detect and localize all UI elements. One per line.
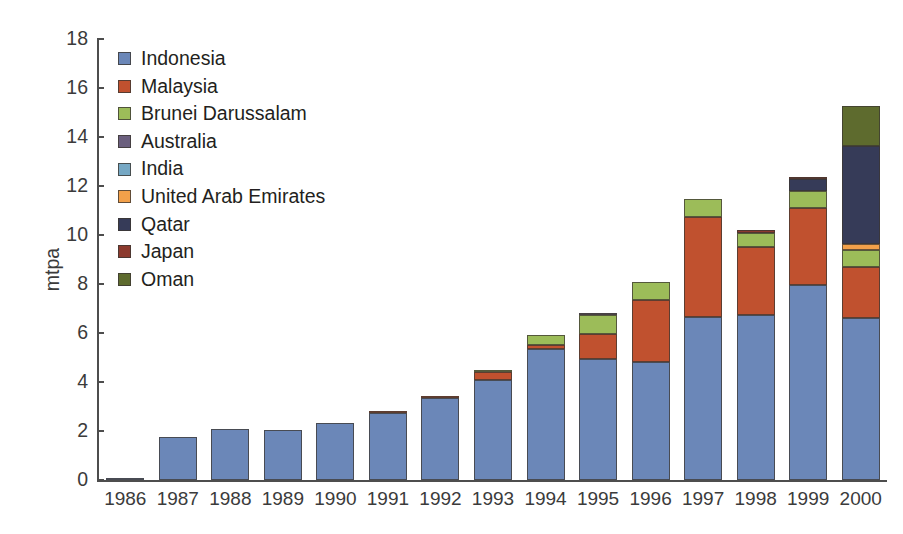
legend-item-label: Indonesia (141, 49, 226, 69)
bar-segment[interactable] (474, 372, 512, 379)
y-axis-tick-label: 2 (40, 421, 88, 441)
bar-segment[interactable] (369, 411, 407, 413)
bar-segment[interactable] (421, 396, 459, 398)
legend-item[interactable]: Malaysia (118, 73, 325, 101)
legend-item-label: Malaysia (141, 77, 218, 97)
bar-segment[interactable] (842, 106, 880, 145)
bar-group[interactable] (527, 39, 565, 480)
legend-swatch-icon (118, 163, 131, 176)
x-axis-line (97, 480, 887, 482)
y-axis-tick-label: 4 (40, 372, 88, 392)
legend-swatch-icon (118, 190, 131, 203)
legend-item-label: Qatar (141, 215, 190, 235)
bar-segment[interactable] (264, 430, 302, 480)
legend-item-label: Brunei Darussalam (141, 104, 307, 124)
bar-group[interactable] (632, 39, 670, 480)
bar-segment[interactable] (842, 244, 880, 249)
legend-swatch-icon (118, 135, 131, 148)
legend-item[interactable]: Japan (118, 238, 325, 266)
legend-swatch-icon (118, 273, 131, 286)
legend-item-label: Oman (141, 270, 194, 290)
legend-item-label: India (141, 159, 183, 179)
bar-segment[interactable] (421, 398, 459, 480)
bar-segment[interactable] (632, 282, 670, 300)
bar-group[interactable] (579, 39, 617, 480)
bar-segment[interactable] (369, 413, 407, 480)
bar-group[interactable] (842, 39, 880, 480)
legend-swatch-icon (118, 107, 131, 120)
bar-segment[interactable] (684, 317, 722, 480)
bar-segment[interactable] (579, 315, 617, 335)
legend-item[interactable]: Indonesia (118, 45, 325, 73)
legend-item[interactable]: Australia (118, 128, 325, 156)
legend-swatch-icon (118, 218, 131, 231)
bar-group[interactable] (369, 39, 407, 480)
bar-segment[interactable] (106, 478, 144, 480)
y-axis-tick-label: 18 (40, 29, 88, 49)
y-axis-tick-label: 12 (40, 176, 88, 196)
bar-segment[interactable] (684, 199, 722, 217)
bar-segment[interactable] (842, 318, 880, 480)
bar-segment[interactable] (842, 146, 880, 245)
legend-item-label: Australia (141, 132, 217, 152)
bar-segment[interactable] (474, 380, 512, 480)
bar-segment[interactable] (632, 300, 670, 362)
bar-segment[interactable] (789, 285, 827, 480)
bar-segment[interactable] (579, 334, 617, 359)
bar-segment[interactable] (789, 208, 827, 285)
bar-segment[interactable] (737, 315, 775, 480)
bar-segment[interactable] (579, 359, 617, 480)
bar-segment[interactable] (789, 179, 827, 191)
bar-segment[interactable] (684, 217, 722, 317)
chart-legend: IndonesiaMalaysiaBrunei DarussalamAustra… (118, 45, 325, 293)
bar-segment[interactable] (316, 423, 354, 480)
legend-item-label: Japan (141, 242, 194, 262)
bar-segment[interactable] (789, 191, 827, 208)
bar-segment[interactable] (842, 267, 880, 318)
bar-group[interactable] (474, 39, 512, 480)
legend-swatch-icon (118, 52, 131, 65)
legend-swatch-icon (118, 245, 131, 258)
bar-segment[interactable] (789, 177, 827, 179)
bar-segment[interactable] (842, 250, 880, 267)
bar-segment[interactable] (737, 233, 775, 248)
bar-segment[interactable] (159, 437, 197, 480)
bar-group[interactable] (789, 39, 827, 480)
y-axis-tick-label: 0 (40, 470, 88, 490)
bar-group[interactable] (684, 39, 722, 480)
bar-segment[interactable] (474, 370, 512, 372)
y-axis-title: mtpa (41, 210, 64, 330)
bar-segment[interactable] (527, 349, 565, 480)
bar-group[interactable] (421, 39, 459, 480)
legend-item[interactable]: Qatar (118, 211, 325, 239)
legend-item-label: United Arab Emirates (141, 187, 325, 207)
legend-item[interactable]: Oman (118, 266, 325, 294)
legend-swatch-icon (118, 80, 131, 93)
bar-segment[interactable] (579, 313, 617, 315)
bar-segment[interactable] (527, 345, 565, 349)
y-axis-tick-label: 14 (40, 127, 88, 147)
bar-segment[interactable] (737, 247, 775, 314)
legend-item[interactable]: India (118, 155, 325, 183)
legend-item[interactable]: United Arab Emirates (118, 183, 325, 211)
bar-group[interactable] (737, 39, 775, 480)
y-axis-tick-label: 16 (40, 78, 88, 98)
bar-segment[interactable] (737, 230, 775, 233)
x-axis-tick-label: 2000 (830, 489, 892, 508)
bar-segment[interactable] (632, 362, 670, 480)
legend-item[interactable]: Brunei Darussalam (118, 100, 325, 128)
bar-segment[interactable] (527, 335, 565, 344)
stacked-bar-chart: 024681012141618 mtpa 1986198719881989199… (0, 0, 903, 534)
bar-segment[interactable] (211, 429, 249, 480)
